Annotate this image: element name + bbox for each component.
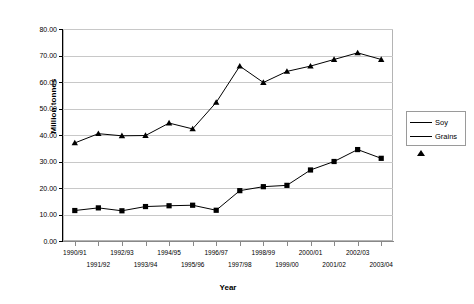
data-point-soy bbox=[190, 203, 195, 208]
data-point-soy bbox=[331, 159, 336, 164]
data-point-soy bbox=[308, 167, 313, 172]
y-axis-tick-label: 40.00 bbox=[21, 132, 57, 139]
y-axis-tick-mark bbox=[59, 162, 63, 163]
data-point-soy bbox=[261, 184, 266, 189]
y-axis-tick-label: 70.00 bbox=[21, 52, 57, 59]
y-axis-tick-label: 60.00 bbox=[21, 79, 57, 86]
x-axis-tick-label: 1992/93 bbox=[105, 249, 139, 257]
y-axis-tick-mark bbox=[59, 109, 63, 110]
x-axis-tick-mark bbox=[381, 242, 382, 246]
data-point-soy bbox=[379, 156, 384, 161]
data-point-soy bbox=[214, 208, 219, 213]
x-axis-tick-label: 1993/94 bbox=[129, 261, 163, 269]
data-point-soy bbox=[355, 147, 360, 152]
x-axis-tick-label: 1999/00 bbox=[270, 261, 304, 269]
y-axis-tick-mark bbox=[59, 56, 63, 57]
plot-area bbox=[63, 29, 393, 241]
x-axis-tick-mark bbox=[75, 242, 76, 246]
x-axis-tick-label: 1990/91 bbox=[58, 249, 92, 257]
y-axis-tick-label: 0.00 bbox=[21, 238, 57, 245]
series-canvas bbox=[63, 29, 393, 241]
x-axis-tick-label: 1997/98 bbox=[223, 261, 257, 269]
x-axis-tick-label: 2003/04 bbox=[364, 261, 398, 269]
legend-item-soy[interactable]: Soy bbox=[410, 115, 463, 129]
y-axis-tick-mark bbox=[59, 135, 63, 136]
x-axis-tick-label: 2002/03 bbox=[341, 249, 375, 257]
data-point-soy bbox=[96, 205, 101, 210]
x-axis-title: Year bbox=[178, 283, 278, 292]
data-point-grains bbox=[213, 99, 219, 105]
x-axis-tick-mark bbox=[193, 242, 194, 246]
y-axis-tick-label: 50.00 bbox=[21, 105, 57, 112]
data-point-soy bbox=[166, 203, 171, 208]
data-point-grains bbox=[354, 50, 360, 56]
x-axis-tick-mark bbox=[216, 242, 217, 246]
y-axis-tick-label: 20.00 bbox=[21, 185, 57, 192]
x-axis-tick-mark bbox=[122, 242, 123, 246]
x-axis-tick-mark bbox=[240, 242, 241, 246]
x-axis-tick-mark bbox=[358, 242, 359, 246]
y-axis-tick-mark bbox=[59, 215, 63, 216]
legend-item-grains[interactable]: Grains bbox=[410, 129, 463, 143]
y-axis-tick-label: 10.00 bbox=[21, 211, 57, 218]
x-axis-tick-mark bbox=[98, 242, 99, 246]
y-axis-tick-label: 80.00 bbox=[21, 26, 57, 33]
data-point-soy bbox=[237, 188, 242, 193]
x-axis-tick-label: 2000/01 bbox=[294, 249, 328, 257]
legend-label-grains: Grains bbox=[432, 132, 457, 141]
x-axis-tick-label: 1996/97 bbox=[199, 249, 233, 257]
data-point-soy bbox=[143, 204, 148, 209]
data-point-grains bbox=[237, 63, 243, 69]
x-axis-line bbox=[62, 241, 394, 242]
x-axis-tick-label: 2001/02 bbox=[317, 261, 351, 269]
chart-legend: Soy Grains bbox=[406, 111, 466, 146]
legend-marker-triangle-icon bbox=[410, 130, 432, 142]
y-axis-tick-mark bbox=[59, 82, 63, 83]
y-axis-tick-mark bbox=[59, 29, 63, 30]
x-axis-tick-mark bbox=[334, 242, 335, 246]
data-point-grains bbox=[95, 130, 101, 136]
x-axis-tick-label: 1998/99 bbox=[246, 249, 280, 257]
x-axis-tick-label: 1995/96 bbox=[176, 261, 210, 269]
legend-marker-square-icon bbox=[410, 116, 432, 128]
data-point-soy bbox=[119, 208, 124, 213]
x-axis-tick-mark bbox=[169, 242, 170, 246]
y-axis-tick-label: 30.00 bbox=[21, 158, 57, 165]
data-point-soy bbox=[284, 183, 289, 188]
series-line-grains bbox=[75, 53, 381, 143]
x-axis-tick-label: 1994/95 bbox=[152, 249, 186, 257]
x-axis-tick-mark bbox=[287, 242, 288, 246]
data-point-grains bbox=[260, 79, 266, 85]
legend-label-soy: Soy bbox=[432, 118, 448, 127]
x-axis-tick-mark bbox=[263, 242, 264, 246]
x-axis-tick-mark bbox=[146, 242, 147, 246]
data-point-soy bbox=[72, 208, 77, 213]
x-axis-tick-mark bbox=[311, 242, 312, 246]
x-axis-tick-label: 1991/92 bbox=[81, 261, 115, 269]
y-axis-tick-mark bbox=[59, 241, 63, 242]
y-axis-tick-mark bbox=[59, 188, 63, 189]
series-line-soy bbox=[75, 150, 381, 211]
chart-figure: Million tonnes 0.0010.0020.0030.0040.005… bbox=[0, 0, 474, 304]
data-point-grains bbox=[166, 120, 172, 126]
